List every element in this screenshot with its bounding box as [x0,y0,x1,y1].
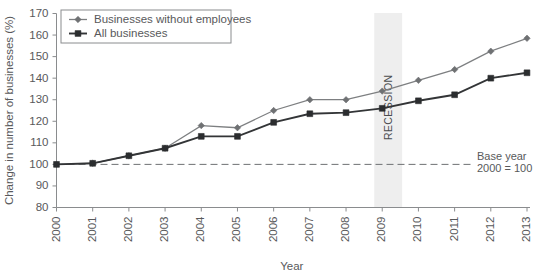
data-point [524,35,530,41]
data-point [90,160,96,166]
series-line-2 [57,73,528,165]
x-tick-label: 2007 [303,217,315,243]
y-tick-label: 170 [29,7,48,19]
line-chart: RECESSION1701601501401301201101009080200… [0,0,548,279]
data-point [307,97,313,103]
data-point [126,153,132,159]
x-tick-label: 2009 [375,217,387,243]
data-point [234,125,240,131]
legend-swatch-marker [75,31,81,37]
base-year-label-line2: 2000 = 100 [477,162,532,174]
x-tick-label: 2006 [267,217,279,243]
x-axis-title: Year [280,260,303,272]
data-point [198,133,204,139]
data-point [271,119,277,125]
chart-canvas: RECESSION1701601501401301201101009080200… [0,0,548,279]
legend-item-label[interactable]: Businesses without employees [94,13,251,25]
y-tick-label: 80 [36,201,49,213]
x-tick-label: 2011 [448,217,460,242]
x-tick-label: 2010 [411,217,423,243]
data-point [54,161,60,167]
x-tick-label: 2012 [484,217,496,243]
x-tick-label: 2004 [194,216,206,242]
y-tick-label: 150 [29,50,48,62]
y-tick-label: 120 [29,115,48,127]
x-tick-label: 2005 [230,217,242,243]
data-point [235,133,241,139]
x-tick-label: 2013 [520,217,532,243]
data-point [488,75,494,81]
data-point [379,105,385,111]
data-point [488,48,494,54]
y-axis-title: Change in number of businesses (%) [3,16,15,205]
data-point [416,98,422,104]
x-tick-label: 2002 [122,217,134,243]
data-point [452,92,458,98]
y-tick-label: 100 [29,158,48,170]
base-year-label-line1: Base year [477,150,527,162]
data-point [307,111,313,117]
y-tick-label: 160 [29,29,48,41]
x-tick-label: 2008 [339,217,351,243]
y-tick-label: 110 [30,136,48,148]
data-point [524,70,530,76]
x-tick-label: 2001 [86,217,98,243]
data-point [198,122,204,128]
y-tick-label: 140 [29,72,48,84]
data-point [415,77,421,83]
y-tick-label: 90 [36,179,49,191]
data-point [343,110,349,116]
x-tick-label: 2003 [158,217,170,243]
x-tick-label: 2000 [50,217,62,243]
data-point [451,66,457,72]
data-point [270,107,276,113]
y-tick-label: 130 [29,93,48,105]
legend-item-label[interactable]: All businesses [94,27,168,39]
data-point [162,145,168,151]
series-line-1 [57,38,528,164]
data-point [343,97,349,103]
